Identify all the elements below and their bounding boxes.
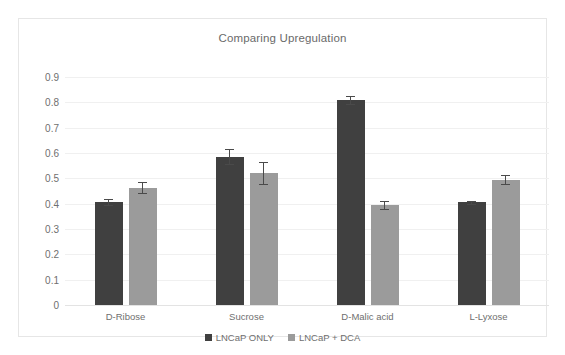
gridline: [65, 102, 549, 103]
error-bar-stem: [263, 162, 264, 184]
bar[interactable]: [129, 188, 157, 305]
bar[interactable]: [371, 205, 399, 305]
bar[interactable]: [458, 202, 486, 305]
legend-item[interactable]: LNCaP + DCA: [288, 332, 360, 343]
gridline: [65, 128, 549, 129]
gridline: [65, 178, 549, 179]
error-bar-cap-bottom: [346, 104, 355, 105]
y-axis-tick-label: 0.2: [45, 249, 59, 260]
error-bar-cap-top: [346, 96, 355, 97]
error-bar-stem: [142, 182, 143, 193]
y-axis-tick-label: 0.6: [45, 148, 59, 159]
y-axis-tick-label: 0: [53, 300, 59, 311]
y-axis-tick-label: 0.1: [45, 274, 59, 285]
x-axis-category-label: D-Ribose: [65, 311, 186, 322]
bar[interactable]: [95, 202, 123, 305]
error-bar-stem: [350, 96, 351, 104]
y-axis-tick-labels: 0.90.80.70.60.50.40.30.20.10: [27, 77, 59, 305]
error-bar-cap-top: [501, 175, 510, 176]
chart-legend: LNCaP ONLYLNCaP + DCA: [19, 332, 546, 343]
error-bar: [492, 175, 520, 184]
error-bar-cap-bottom: [138, 193, 147, 194]
y-axis-tick-label: 0.7: [45, 122, 59, 133]
bar[interactable]: [492, 180, 520, 305]
error-bar: [250, 162, 278, 184]
error-bar: [337, 96, 365, 104]
x-axis-category-label: L-Lyxose: [428, 311, 549, 322]
error-bar-cap-bottom: [380, 209, 389, 210]
error-bar: [371, 201, 399, 210]
error-bar: [458, 201, 486, 205]
bar[interactable]: [337, 100, 365, 305]
error-bar-cap-top: [138, 182, 147, 183]
y-axis-tick-label: 0.4: [45, 198, 59, 209]
error-bar-cap-bottom: [225, 164, 234, 165]
error-bar-cap-top: [380, 201, 389, 202]
chart-title: Comparing Upregulation: [19, 32, 546, 44]
error-bar: [95, 199, 123, 205]
y-axis-tick-label: 0.3: [45, 224, 59, 235]
error-bar-cap-top: [225, 149, 234, 150]
error-bar-cap-top: [104, 199, 113, 200]
bar[interactable]: [250, 173, 278, 305]
error-bar-stem: [229, 149, 230, 164]
y-axis-tick-label: 0.5: [45, 173, 59, 184]
error-bar-cap-bottom: [104, 205, 113, 206]
legend-item[interactable]: LNCaP ONLY: [205, 332, 274, 343]
gridline: [65, 305, 549, 306]
legend-item-label: LNCaP + DCA: [299, 332, 360, 343]
legend-item-label: LNCaP ONLY: [216, 332, 274, 343]
y-axis-tick-label: 0.9: [45, 72, 59, 83]
plot-area: [65, 77, 549, 305]
x-axis-category-label: Sucrose: [186, 311, 307, 322]
legend-swatch-icon: [288, 334, 295, 341]
error-bar-cap-bottom: [467, 204, 476, 205]
error-bar-cap-bottom: [259, 184, 268, 185]
error-bar: [129, 182, 157, 193]
chart-container: Comparing Upregulation 0.90.80.70.60.50.…: [18, 18, 547, 337]
error-bar-stem: [505, 175, 506, 184]
gridline: [65, 77, 549, 78]
error-bar: [216, 149, 244, 164]
y-axis-tick-label: 0.8: [45, 97, 59, 108]
x-axis-category-label: D-Malic acid: [307, 311, 428, 322]
error-bar-stem: [384, 201, 385, 210]
gridline: [65, 153, 549, 154]
legend-swatch-icon: [205, 334, 212, 341]
error-bar-cap-bottom: [501, 184, 510, 185]
bar[interactable]: [216, 157, 244, 305]
error-bar-cap-top: [259, 162, 268, 163]
error-bar-cap-top: [467, 201, 476, 202]
